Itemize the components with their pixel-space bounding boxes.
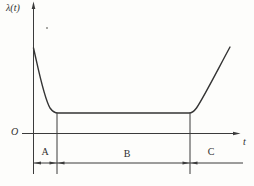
dim-arrow-b-left-icon bbox=[58, 161, 65, 164]
region-label-b: B bbox=[124, 149, 131, 159]
dim-arrow-a-left-icon bbox=[34, 161, 41, 164]
x-axis-label: t bbox=[243, 137, 246, 147]
dim-arrow-a-right-icon bbox=[50, 161, 57, 164]
x-axis-arrowhead-icon bbox=[233, 132, 241, 136]
speck-artifact bbox=[46, 27, 48, 29]
region-label-c: C bbox=[208, 147, 215, 157]
dim-arrow-b-right-icon bbox=[183, 161, 190, 164]
failure-rate-curve bbox=[34, 47, 231, 113]
y-axis-arrowhead-icon bbox=[32, 2, 36, 10]
bathtub-curve-figure: λ(t) O t A B C bbox=[0, 0, 254, 186]
origin-label: O bbox=[11, 127, 18, 137]
dim-arrow-c-left-icon bbox=[191, 161, 198, 164]
y-axis-label: λ(t) bbox=[6, 3, 20, 13]
region-label-a: A bbox=[41, 147, 48, 157]
